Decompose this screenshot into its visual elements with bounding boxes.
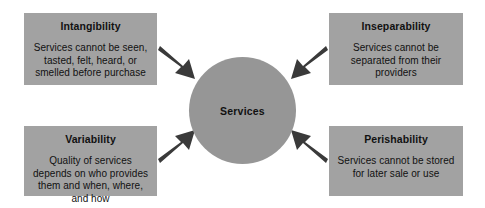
arrow-variability-to-services bbox=[158, 130, 195, 163]
arrow-inseparability-to-services bbox=[291, 46, 328, 79]
box-title-variability: Variability bbox=[65, 133, 116, 146]
characteristic-box-perishability: Perishability Services cannot be stored … bbox=[329, 126, 463, 196]
box-body-inseparability: Services cannot be separated from their … bbox=[335, 42, 457, 80]
box-title-perishability: Perishability bbox=[364, 133, 428, 146]
center-circle-label: Services bbox=[220, 105, 265, 117]
center-circle-services: Services bbox=[189, 57, 296, 164]
characteristic-box-intangibility: Intangibility Services cannot be seen, t… bbox=[24, 13, 157, 85]
arrow-perishability-to-services bbox=[291, 130, 328, 163]
box-body-variability: Quality of services depends on who provi… bbox=[30, 155, 151, 205]
box-body-perishability: Services cannot be stored for later sale… bbox=[335, 155, 457, 180]
box-body-intangibility: Services cannot be seen, tasted, felt, h… bbox=[30, 42, 151, 80]
characteristic-box-variability: Variability Quality of services depends … bbox=[24, 126, 157, 196]
services-characteristics-diagram: Intangibility Services cannot be seen, t… bbox=[0, 0, 485, 208]
box-title-inseparability: Inseparability bbox=[361, 20, 430, 33]
arrow-intangibility-to-services bbox=[158, 46, 195, 79]
box-title-intangibility: Intangibility bbox=[60, 20, 120, 33]
characteristic-box-inseparability: Inseparability Services cannot be separa… bbox=[329, 13, 463, 85]
